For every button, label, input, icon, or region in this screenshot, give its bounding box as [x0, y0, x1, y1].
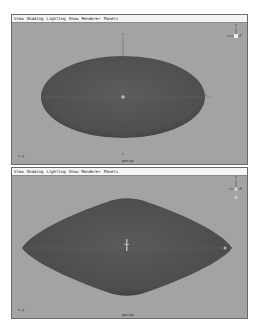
axis-corner-label: x-y	[18, 154, 24, 158]
svg-text:x: x	[240, 186, 242, 190]
axis-corner-label: x-y	[18, 308, 24, 312]
view-axis-gizmo: y x	[229, 175, 242, 199]
viewport-top[interactable]: View Shading Lighting Show Renderer Pane…	[11, 14, 248, 165]
viewport-bottom[interactable]: View Shading Lighting Show Renderer Pane…	[11, 167, 248, 319]
camera-label: persp	[122, 313, 134, 317]
svg-text:z: z	[122, 152, 124, 156]
view-axis-gizmo: y x	[227, 23, 242, 38]
scene-canvas[interactable]: y x	[12, 168, 248, 319]
edge-marker	[224, 247, 227, 250]
pivot-marker	[122, 96, 125, 99]
camera-label: persp	[122, 159, 134, 163]
y-axis-label: y	[122, 32, 124, 36]
svg-text:y: y	[235, 175, 237, 179]
svg-text:y: y	[235, 23, 237, 27]
scene-canvas[interactable]: y x z y x	[12, 15, 248, 165]
svg-text:x: x	[240, 33, 242, 37]
svg-text:x: x	[205, 93, 207, 97]
